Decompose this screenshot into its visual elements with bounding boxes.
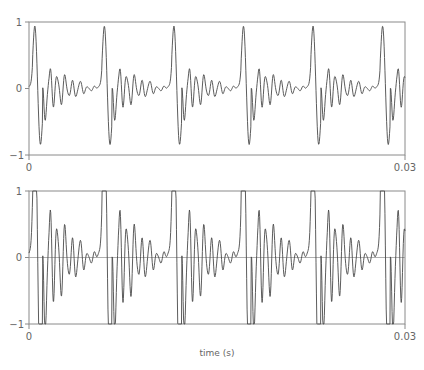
top-x-label-end: 0.03 xyxy=(394,162,416,173)
bottom-y-label-neg1: −1 xyxy=(9,319,24,330)
bottom-x-label-end: 0.03 xyxy=(394,331,416,342)
top-chart: 1 0 −1 0 0.03 xyxy=(9,17,416,173)
top-y-label-0: 0 xyxy=(16,83,22,94)
x-axis-title: time (s) xyxy=(200,348,235,358)
bottom-x-label-0: 0 xyxy=(26,331,32,342)
top-x-label-0: 0 xyxy=(26,162,32,173)
figure: 1 0 −1 0 0.03 1 0 −1 0 0.03 time (s) xyxy=(0,0,424,370)
top-y-label-neg1: −1 xyxy=(9,150,24,161)
top-waveform-line xyxy=(29,26,405,144)
top-y-label-1: 1 xyxy=(16,17,22,28)
bottom-y-label-0: 0 xyxy=(16,252,22,263)
bottom-y-label-1: 1 xyxy=(16,186,22,197)
bottom-chart: 1 0 −1 0 0.03 time (s) xyxy=(9,186,416,358)
